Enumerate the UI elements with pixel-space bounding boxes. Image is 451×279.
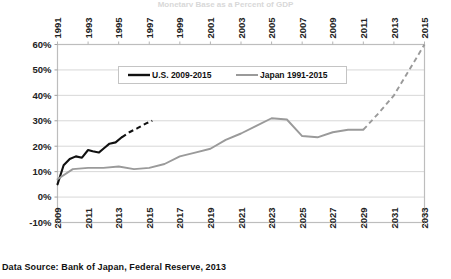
svg-text:60%: 60% [32,39,52,50]
y-axis-tick-labels: 60%50%40%30%20%10%0%-10% [29,39,57,228]
bottom-axis-tick-labels: 2009201120132015201720192021202320252027… [52,207,430,229]
svg-text:U.S. 2009-2015: U.S. 2009-2015 [152,70,212,80]
svg-text:2013: 2013 [389,17,400,38]
svg-text:20%: 20% [32,141,52,152]
top-axis-tick-labels: 1991199319951997199920012003200520072009… [52,17,430,45]
chart-figure: Monetary Base as a Percent of GDP 60%50%… [0,0,451,279]
svg-text:2007: 2007 [297,17,308,38]
svg-text:1995: 1995 [113,17,124,39]
data-series-layer [58,45,425,185]
svg-text:0%: 0% [38,191,52,202]
chart-legend: U.S. 2009-2015Japan 1991-2015 [119,67,347,84]
svg-text:50%: 50% [32,64,52,75]
figure-top-title: Monetary Base as a Percent of GDP [0,0,451,7]
svg-text:2015: 2015 [419,17,430,39]
svg-text:30%: 30% [32,115,52,126]
svg-text:2001: 2001 [205,17,216,39]
svg-text:1999: 1999 [174,17,185,38]
svg-text:2009: 2009 [327,17,338,38]
svg-text:Japan 1991-2015: Japan 1991-2015 [260,70,328,80]
svg-text:40%: 40% [32,90,52,101]
data-source-caption: Data Source: Bank of Japan, Federal Rese… [2,262,226,272]
svg-text:1997: 1997 [144,17,155,38]
svg-text:1993: 1993 [83,17,94,38]
svg-text:10%: 10% [32,166,52,177]
svg-text:2003: 2003 [236,17,247,38]
svg-text:-10%: -10% [29,217,52,228]
line-chart-canvas: 60%50%40%30%20%10%0%-10% 199119931995199… [0,0,451,258]
svg-text:2005: 2005 [266,17,277,39]
svg-text:2011: 2011 [358,17,369,38]
svg-text:1991: 1991 [52,17,63,39]
